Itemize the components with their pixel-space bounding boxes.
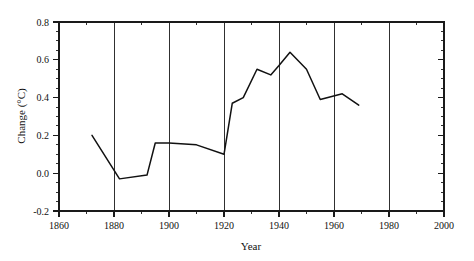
ytick-label-3: 0.2 [37, 130, 50, 141]
ytick-label-0: 0.8 [37, 17, 50, 28]
xtick-label-6: 1980 [379, 220, 399, 231]
xtick-label-4: 1940 [269, 220, 289, 231]
xtick-label-7: 2000 [434, 220, 454, 231]
xtick-label-2: 1900 [159, 220, 179, 231]
plot-frame [59, 22, 444, 211]
xtick-label-0: 1860 [49, 220, 69, 231]
temperature-change-line-chart: 0.8 0.6 0.4 0.2 0.0 -0.2 1860 1880 1900 … [0, 0, 474, 261]
data-series-group [92, 52, 359, 179]
ytick-label-2: 0.4 [37, 92, 50, 103]
xtick-label-1: 1880 [104, 220, 124, 231]
y-axis-right-minor-ticks [438, 31, 444, 201]
series-line-change [92, 52, 359, 179]
xtick-label-5: 1960 [324, 220, 344, 231]
chart-svg: 0.8 0.6 0.4 0.2 0.0 -0.2 1860 1880 1900 … [0, 0, 474, 261]
ytick-label-1: 0.6 [37, 54, 50, 65]
x-axis-title: Year [241, 240, 262, 252]
vertical-gridlines [114, 22, 389, 211]
y-axis-tick-labels: 0.8 0.6 0.4 0.2 0.0 -0.2 [33, 17, 49, 217]
xtick-label-3: 1920 [214, 220, 234, 231]
ytick-label-4: 0.0 [37, 168, 50, 179]
y-axis-title: Change (°C) [15, 88, 28, 144]
plot-area-border [59, 22, 444, 211]
x-axis-tick-labels: 1860 1880 1900 1920 1940 1960 1980 2000 [49, 220, 454, 231]
ytick-label-5: -0.2 [33, 206, 49, 217]
